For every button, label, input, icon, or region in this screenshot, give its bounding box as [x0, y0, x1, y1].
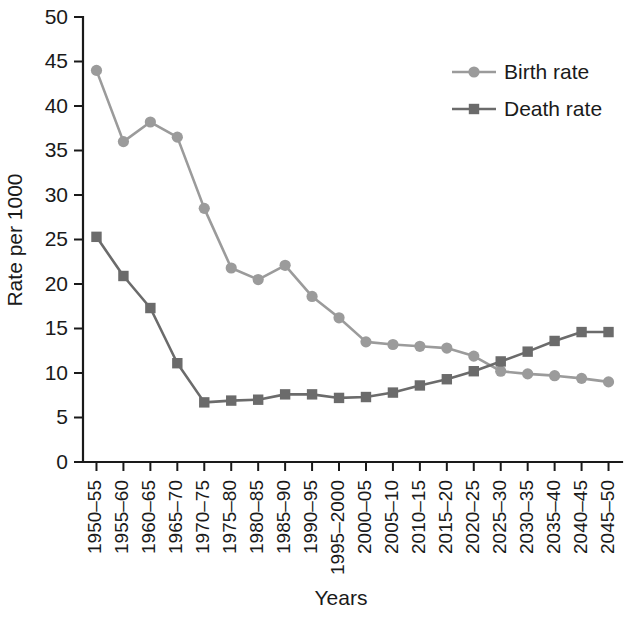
legend-label: Birth rate — [504, 60, 589, 83]
data-point — [496, 356, 506, 366]
x-tick-label: 2005–10 — [381, 480, 402, 554]
x-tick-label: 1950–55 — [84, 480, 105, 554]
y-tick-label: 45 — [45, 49, 68, 72]
y-tick-label: 25 — [45, 227, 68, 250]
data-point — [361, 392, 371, 402]
data-point — [549, 370, 560, 381]
line-chart: 05101520253035404550 1950–551955–601960–… — [0, 0, 637, 621]
data-point — [603, 327, 613, 337]
data-point — [495, 366, 506, 377]
circle-marker-icon — [468, 66, 479, 77]
data-point — [576, 327, 586, 337]
x-tick-label: 2025–30 — [489, 480, 510, 554]
x-tick-label: 1960–65 — [138, 480, 159, 554]
data-point — [387, 339, 398, 350]
y-tick-label: 35 — [45, 138, 68, 161]
data-point — [253, 395, 263, 405]
x-tick-label: 1970–75 — [192, 480, 213, 554]
x-axis-ticks — [96, 462, 608, 471]
data-point — [469, 366, 479, 376]
data-point — [199, 203, 210, 214]
y-tick-label: 20 — [45, 272, 68, 295]
data-point — [334, 393, 344, 403]
x-tick-label: 1990–95 — [300, 480, 321, 554]
x-tick-label: 1995–2000 — [327, 480, 348, 575]
data-point — [226, 262, 237, 273]
x-tick-label: 2040–45 — [570, 480, 591, 554]
x-tick-label: 1965–70 — [165, 480, 186, 554]
data-point — [360, 336, 371, 347]
data-point — [226, 395, 236, 405]
data-point — [468, 350, 479, 361]
x-tick-label: 2030–35 — [516, 480, 537, 554]
x-axis-tick-labels: 1950–551955–601960–651965–701970–751975–… — [84, 480, 617, 575]
x-tick-label: 1975–80 — [219, 480, 240, 554]
data-point — [549, 336, 559, 346]
square-marker-icon — [469, 104, 479, 114]
y-tick-label: 10 — [45, 361, 68, 384]
data-point — [145, 116, 156, 127]
y-tick-label: 30 — [45, 183, 68, 206]
data-point — [307, 389, 317, 399]
chart-container: 05101520253035404550 1950–551955–601960–… — [0, 0, 637, 621]
data-point — [414, 341, 425, 352]
x-tick-label: 2020–25 — [462, 480, 483, 554]
y-tick-label: 15 — [45, 316, 68, 339]
y-tick-label: 5 — [56, 405, 68, 428]
x-tick-label: 2000–05 — [354, 480, 375, 554]
x-tick-label: 2045–50 — [597, 480, 618, 554]
data-point — [145, 303, 155, 313]
data-point — [91, 232, 101, 242]
data-point — [172, 358, 182, 368]
data-point — [603, 376, 614, 387]
data-point — [118, 271, 128, 281]
y-axis-title: Rate per 1000 — [3, 173, 26, 306]
y-tick-label: 40 — [45, 94, 68, 117]
series-death-rate — [91, 232, 613, 408]
x-tick-label: 1985–90 — [273, 480, 294, 554]
y-axis-ticks: 05101520253035404550 — [45, 5, 83, 473]
data-point — [280, 389, 290, 399]
y-tick-label: 50 — [45, 5, 68, 28]
data-point — [118, 136, 129, 147]
data-point — [91, 65, 102, 76]
data-point — [441, 342, 452, 353]
x-tick-label: 2035–40 — [543, 480, 564, 554]
legend-label: Death rate — [504, 97, 602, 120]
x-tick-label: 2015–20 — [435, 480, 456, 554]
x-tick-label: 1955–60 — [111, 480, 132, 554]
x-tick-label: 2010–15 — [408, 480, 429, 554]
data-point — [522, 368, 533, 379]
data-point — [280, 260, 291, 271]
data-point — [442, 374, 452, 384]
data-point — [172, 132, 183, 143]
data-point — [522, 346, 532, 356]
data-point — [306, 291, 317, 302]
x-tick-label: 1980–85 — [246, 480, 267, 554]
data-point — [576, 373, 587, 384]
y-tick-label: 0 — [56, 450, 68, 473]
data-point — [199, 397, 209, 407]
data-point — [253, 274, 264, 285]
data-point — [333, 312, 344, 323]
data-point — [388, 387, 398, 397]
data-point — [415, 380, 425, 390]
x-axis-title: Years — [315, 586, 368, 609]
chart-legend: Birth rateDeath rate — [452, 60, 602, 120]
